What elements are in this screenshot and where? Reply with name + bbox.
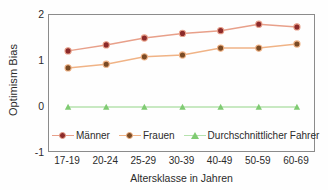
legend-label: Männer [76, 130, 110, 141]
series-line [68, 24, 297, 51]
data-point-marker [103, 42, 109, 48]
optimism-bias-line-chart: Optimism Bias 210-1 17-1920-2425-2930-39… [0, 0, 328, 190]
chart-legend: MännerFrauenDurchschnittlicher Fahrer [52, 127, 310, 143]
y-axis-tick: 0 [24, 101, 44, 111]
data-point-marker [256, 45, 262, 51]
data-point-marker [103, 61, 109, 67]
data-point-marker [141, 54, 147, 60]
x-axis-tick: 50-59 [245, 155, 271, 166]
data-point-marker [179, 30, 185, 36]
y-axis-tick: -1 [24, 147, 44, 157]
x-axis-tick: 60-69 [283, 155, 309, 166]
legend-circle-marker-icon [59, 132, 66, 139]
y-axis-label: Optimism Bias [7, 44, 19, 116]
legend-entry-durchschnittlicher-fahrer[interactable]: Durchschnittlicher Fahrer [184, 130, 320, 141]
y-axis-label-container: Optimism Bias [2, 0, 24, 160]
x-axis-tick: 20-24 [92, 155, 118, 166]
legend-label: Frauen [143, 130, 175, 141]
y-axis-tick: 2 [24, 9, 44, 19]
data-point-marker [294, 41, 300, 47]
data-point-marker [65, 65, 71, 71]
x-axis-tick: 25-29 [131, 155, 157, 166]
data-point-marker [141, 35, 147, 41]
legend-label: Durchschnittlicher Fahrer [208, 130, 320, 141]
y-axis-tick: 1 [24, 55, 44, 65]
legend-entry-m-nner[interactable]: Männer [52, 130, 110, 141]
x-axis-label: Altersklasse in Jahren [48, 172, 315, 184]
series-durchschnittlicher-fahrer [65, 104, 300, 110]
legend-swatch [184, 130, 206, 140]
series-m-nner [65, 21, 300, 54]
y-axis-tick-labels: 210-1 [22, 0, 44, 190]
data-point-marker [294, 24, 300, 30]
legend-triangle-marker-icon [191, 132, 199, 139]
x-axis-tick: 30-39 [169, 155, 195, 166]
x-axis-tick: 40-49 [207, 155, 233, 166]
data-point-marker [218, 45, 224, 51]
data-point-marker [218, 28, 224, 34]
legend-entry-frauen[interactable]: Frauen [119, 130, 175, 141]
legend-circle-marker-icon [126, 132, 133, 139]
legend-swatch [52, 130, 74, 140]
x-axis-tick: 17-19 [54, 155, 80, 166]
x-axis-tick-labels: 17-1920-2425-2930-3940-4950-5960-69 [48, 155, 315, 169]
legend-swatch [119, 130, 141, 140]
data-point-marker [65, 48, 71, 54]
data-point-marker [179, 52, 185, 58]
data-point-marker [256, 21, 262, 27]
